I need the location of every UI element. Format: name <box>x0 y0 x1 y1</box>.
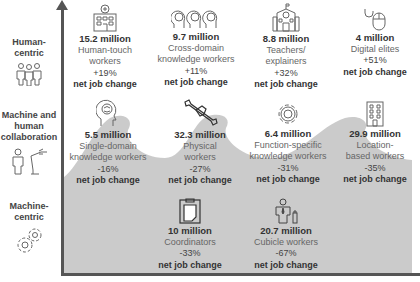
worker-type: knowledge workers <box>236 151 340 163</box>
net-change-label: net job change <box>327 174 420 186</box>
hospital-icon <box>91 4 119 32</box>
category-label: Human- <box>0 37 58 48</box>
net-change-percent: -33% <box>140 248 240 260</box>
category-label: Machine and <box>0 110 58 121</box>
worker-type: Coordinators <box>140 237 240 249</box>
net-change-label: net job change <box>236 260 336 272</box>
worker-type: based workers <box>327 151 420 163</box>
worker-type: Function-specific <box>236 140 340 152</box>
net-change-label: net job change <box>325 67 420 79</box>
net-change-label: net job change <box>150 175 250 187</box>
job-card: 10 million Coordinators -33% net job cha… <box>140 198 240 271</box>
category-human-centric: Human- centric <box>0 37 58 86</box>
worker-type: workers <box>150 152 250 164</box>
category-label: Machine- <box>0 201 58 212</box>
net-change-label: net job change <box>236 79 336 91</box>
worker-count: 10 million <box>140 225 240 237</box>
category-label: collaboration <box>0 132 58 143</box>
clipboard-icon <box>179 198 201 224</box>
people-group-icon <box>14 62 44 86</box>
net-change-label: net job change <box>144 77 248 89</box>
net-change-percent: +51% <box>325 55 420 67</box>
office-worker-icon <box>273 198 299 224</box>
worker-count: 15.2 million <box>55 33 155 45</box>
worker-count: 29.9 million <box>327 128 420 140</box>
worker-count: 6.4 million <box>236 128 340 140</box>
job-card: 4 million Digital elites +51% net job ch… <box>325 7 420 78</box>
worker-type: Location- <box>327 140 420 152</box>
job-card: 15.2 million Human-touch workers +19% ne… <box>55 4 155 91</box>
job-card: 6.4 million Function-specific knowledge … <box>236 101 340 186</box>
net-change-label: net job change <box>236 174 340 186</box>
worker-count: 4 million <box>325 32 420 44</box>
worker-count: 32.3 million <box>150 129 250 141</box>
worker-type: Human-touch <box>55 45 155 57</box>
job-card: 5.5 million Single-domain knowledge work… <box>55 98 161 187</box>
worker-count: 9.7 million <box>144 31 248 43</box>
net-change-percent: +19% <box>55 68 155 80</box>
net-change-percent: -31% <box>236 163 340 175</box>
brain-head-icon <box>96 98 120 128</box>
category-machine-centric: Machine- centric <box>0 201 58 256</box>
net-change-percent: -35% <box>327 163 420 175</box>
mouse-icon <box>361 7 389 31</box>
category-collaboration: Machine and human collaboration <box>0 110 58 176</box>
gear-icon <box>275 101 301 127</box>
job-card: 9.7 million Cross-domain knowledge worke… <box>144 8 248 89</box>
net-change-percent: +11% <box>144 66 248 78</box>
worker-type: knowledge workers <box>144 54 248 66</box>
worker-type: Single-domain <box>55 141 161 153</box>
school-icon <box>271 3 301 32</box>
category-label: centric <box>0 212 58 223</box>
worker-type: Cross-domain <box>144 43 248 55</box>
net-change-label: net job change <box>55 79 155 91</box>
person-and-robot-arm-icon <box>9 146 49 176</box>
worker-type: Physical <box>150 141 250 153</box>
horizontal-axis <box>61 273 420 276</box>
gears-icon <box>13 226 45 256</box>
net-change-percent: -67% <box>236 248 336 260</box>
worker-type: Cubicle workers <box>236 237 336 249</box>
building-icon <box>365 101 385 127</box>
category-label: centric <box>0 48 58 59</box>
job-card: 32.3 million Physical workers -27% net j… <box>150 98 250 187</box>
net-change-percent: +32% <box>236 68 336 80</box>
wrench-hand-icon <box>182 98 218 128</box>
net-change-percent: -16% <box>55 164 161 176</box>
job-card: 20.7 million Cubicle workers -67% net jo… <box>236 198 336 271</box>
three-brains-icon <box>171 8 221 30</box>
net-change-label: net job change <box>140 260 240 272</box>
worker-type: Digital elites <box>325 44 420 56</box>
worker-count: 20.7 million <box>236 225 336 237</box>
worker-type: explainers <box>236 56 336 68</box>
job-card: 29.9 million Location- based workers -35… <box>327 101 420 186</box>
worker-count: 8.8 million <box>236 33 336 45</box>
worker-type: Teachers/ <box>236 45 336 57</box>
worker-type: knowledge workers <box>55 152 161 164</box>
worker-type: workers <box>55 56 155 68</box>
category-label: human <box>0 121 58 132</box>
net-change-label: net job change <box>55 175 161 187</box>
net-change-percent: -27% <box>150 164 250 176</box>
job-card: 8.8 million Teachers/ explainers +32% ne… <box>236 3 336 91</box>
worker-count: 5.5 million <box>55 129 161 141</box>
